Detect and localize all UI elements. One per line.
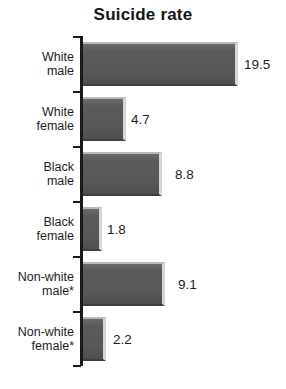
bar-fill bbox=[83, 44, 235, 84]
bar-value-label: 1.8 bbox=[107, 221, 126, 236]
category-label: Black female bbox=[0, 214, 74, 243]
bar[interactable] bbox=[83, 262, 165, 306]
bar[interactable] bbox=[83, 317, 106, 361]
bar-row: Non-white female* 2.2 bbox=[0, 311, 286, 366]
category-label-line2: female bbox=[0, 229, 74, 244]
bar-fill bbox=[83, 154, 159, 194]
chart-title: Suicide rate bbox=[0, 5, 286, 25]
bar-fill bbox=[83, 264, 162, 304]
category-label: Black male bbox=[0, 159, 74, 188]
category-label-line1: White bbox=[0, 104, 74, 119]
category-label-line2: female bbox=[0, 119, 74, 134]
category-label-line2: male* bbox=[0, 284, 74, 299]
bar-fill bbox=[83, 319, 103, 359]
plot-area: White male 19.5 White female 4.7 Black m… bbox=[0, 34, 286, 382]
category-label-line1: Non-white bbox=[0, 269, 74, 284]
category-label-line2: male bbox=[0, 174, 74, 189]
bar[interactable] bbox=[83, 207, 102, 251]
category-label-line1: Non-white bbox=[0, 324, 74, 339]
bar[interactable] bbox=[83, 97, 126, 141]
category-label-line1: White bbox=[0, 49, 74, 64]
category-label: White female bbox=[0, 104, 74, 133]
bar-row: Black female 1.8 bbox=[0, 201, 286, 256]
bar-value-label: 4.7 bbox=[131, 111, 150, 126]
bar-fill bbox=[83, 99, 123, 139]
bar-value-label: 2.2 bbox=[113, 331, 132, 346]
bar-value-label: 9.1 bbox=[178, 276, 197, 291]
category-label-line1: Black bbox=[0, 159, 74, 174]
bar-fill bbox=[83, 209, 99, 249]
bar-row: White male 19.5 bbox=[0, 36, 286, 91]
category-label-line2: female* bbox=[0, 339, 74, 354]
category-label: White male bbox=[0, 49, 74, 78]
bar-value-label: 19.5 bbox=[244, 56, 270, 71]
category-label-line1: Black bbox=[0, 214, 74, 229]
bar[interactable] bbox=[83, 152, 162, 196]
bar[interactable] bbox=[83, 42, 238, 86]
bar-row: Black male 8.8 bbox=[0, 146, 286, 201]
bar-row: Non-white male* 9.1 bbox=[0, 256, 286, 311]
bar-value-label: 8.8 bbox=[175, 166, 194, 181]
category-label: Non-white female* bbox=[0, 324, 74, 353]
category-label-line2: male bbox=[0, 64, 74, 79]
suicide-rate-bar-chart: Suicide rate White male 19.5 White femal… bbox=[0, 0, 286, 389]
bar-row: White female 4.7 bbox=[0, 91, 286, 146]
category-label: Non-white male* bbox=[0, 269, 74, 298]
